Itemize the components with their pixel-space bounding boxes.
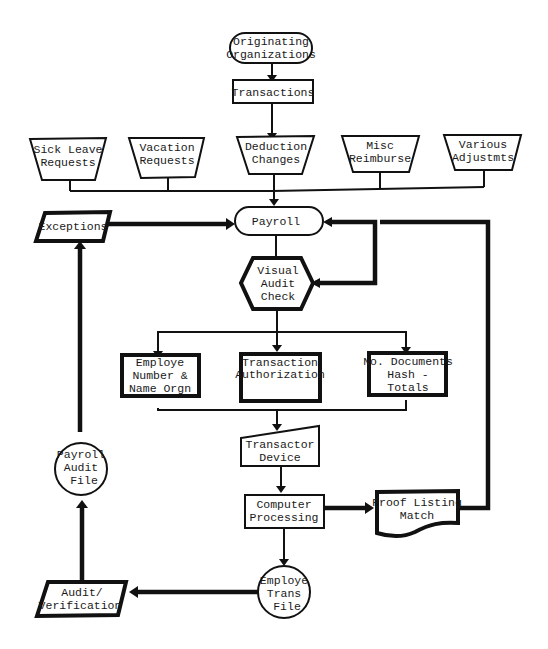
node-label: Match bbox=[400, 509, 435, 522]
node-label: Transactions bbox=[232, 86, 315, 99]
node-label: Deduction bbox=[245, 140, 307, 153]
node-label: File bbox=[273, 600, 301, 613]
node-payroll[interactable]: Payroll bbox=[235, 207, 323, 235]
node-label: File bbox=[70, 474, 98, 487]
node-transaction-authorization[interactable]: Transaction Authorization bbox=[235, 354, 325, 401]
node-label: Payroll bbox=[252, 215, 300, 228]
node-label: Processing bbox=[249, 511, 318, 524]
node-exceptions[interactable]: Exceptions bbox=[36, 212, 110, 241]
node-label: Organizations bbox=[226, 48, 316, 61]
node-label: Trans bbox=[267, 587, 302, 600]
node-visual-audit-check[interactable]: Visual Audit Check bbox=[241, 258, 313, 309]
node-proof-listing-match[interactable]: Proof Listing Match bbox=[372, 491, 462, 536]
node-label: Name Orgn bbox=[129, 382, 191, 395]
node-label: Totals bbox=[387, 381, 428, 394]
node-sick-leave-requests[interactable]: Sick Leave Requests bbox=[30, 138, 106, 180]
node-label: No. Documents bbox=[363, 355, 453, 368]
flowchart-canvas: Originating Organizations Transactions S… bbox=[0, 0, 548, 649]
node-vacation-requests[interactable]: Vacation Requests bbox=[129, 138, 204, 178]
node-audit-verification[interactable]: Audit/ Verification bbox=[37, 582, 126, 616]
node-deduction-changes[interactable]: Deduction Changes bbox=[237, 136, 314, 174]
node-label: Requests bbox=[139, 154, 194, 167]
node-payroll-audit-file[interactable]: Payroll Audit File bbox=[55, 443, 107, 495]
node-various-adjustmts[interactable]: Various Adjustmts bbox=[444, 135, 521, 170]
node-misc-reimburse[interactable]: Misc Reimburse bbox=[342, 136, 419, 172]
node-label: Number & bbox=[132, 369, 187, 382]
node-label: Audit bbox=[261, 277, 296, 290]
node-label: Hash - bbox=[387, 368, 428, 381]
node-label: Changes bbox=[252, 153, 300, 166]
node-label: Reimburse bbox=[349, 152, 411, 165]
node-label: Visual bbox=[257, 264, 299, 277]
node-label: Vacation bbox=[139, 141, 194, 154]
node-label: Audit/ bbox=[61, 586, 103, 599]
node-label: Audit bbox=[64, 461, 99, 474]
node-transactor-device[interactable]: Transactor Device bbox=[241, 426, 319, 466]
node-label: Proof Listing bbox=[372, 496, 462, 509]
node-employe-trans-file[interactable]: Employe Trans File bbox=[258, 566, 310, 618]
node-label: Employe bbox=[260, 574, 308, 587]
node-label: Verification bbox=[39, 599, 122, 612]
node-label: Check bbox=[261, 290, 296, 303]
node-computer-processing[interactable]: Computer Processing bbox=[245, 495, 324, 528]
node-originating-organizations[interactable]: Originating Organizations bbox=[226, 33, 316, 63]
node-label: Exceptions bbox=[38, 220, 107, 233]
node-employe-number-name-orgn[interactable]: Employe Number & Name Orgn bbox=[122, 355, 199, 396]
node-label: Requests bbox=[40, 156, 95, 169]
node-label: Employe bbox=[136, 356, 184, 369]
node-label: Originating bbox=[233, 35, 309, 48]
node-label: Computer bbox=[256, 498, 311, 511]
node-label: Transactor bbox=[245, 438, 314, 451]
node-label: Misc bbox=[366, 139, 394, 152]
node-label: Adjustmts bbox=[452, 151, 514, 164]
node-label: Payroll bbox=[57, 448, 105, 461]
node-transactions[interactable]: Transactions bbox=[232, 80, 315, 103]
node-label: Device bbox=[259, 451, 301, 464]
node-label: Authorization bbox=[235, 368, 325, 381]
node-label: Various bbox=[459, 138, 507, 151]
node-label: Sick Leave bbox=[33, 143, 102, 156]
node-no-documents-hash-totals[interactable]: No. Documents Hash - Totals bbox=[363, 353, 453, 395]
